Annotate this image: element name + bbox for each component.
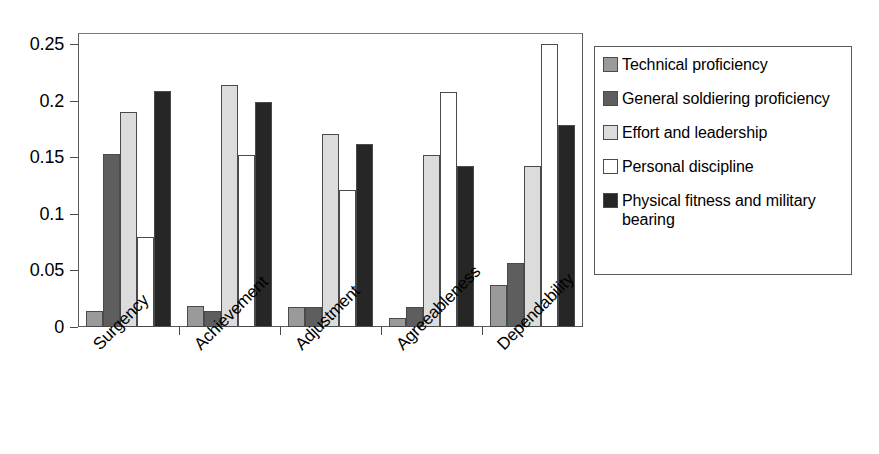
x-axis-tick-mark <box>381 327 382 335</box>
y-axis-tick-label: 0.2 <box>40 92 64 110</box>
bar-group <box>78 33 179 327</box>
legend-item[interactable]: Effort and leadership <box>603 123 845 142</box>
y-axis-tick-mark <box>70 157 78 158</box>
legend-swatch-icon <box>603 125 618 140</box>
y-axis-tick-label: 0.25 <box>30 35 64 53</box>
bar <box>221 85 238 327</box>
x-axis-tick-mark <box>179 327 180 335</box>
y-axis-tick-label: 0.1 <box>40 205 64 223</box>
bar-group <box>280 33 381 327</box>
y-axis-tick-label: 0.15 <box>30 148 64 166</box>
legend-item-label: Physical fitness and military bearing <box>622 191 845 229</box>
bar <box>154 91 171 327</box>
bar <box>490 285 507 327</box>
chart-legend: Technical proficiencyGeneral soldiering … <box>594 46 852 275</box>
bar <box>288 307 305 327</box>
legend-item[interactable]: Technical proficiency <box>603 55 845 74</box>
bar <box>187 306 204 327</box>
y-axis-tick-label: 0 <box>54 318 64 336</box>
legend-swatch-icon <box>603 193 618 208</box>
legend-swatch-icon <box>603 159 618 174</box>
legend-swatch-icon <box>603 91 618 106</box>
legend-item-label: General soldiering proficiency <box>622 89 830 108</box>
y-axis-tick-mark <box>70 327 78 328</box>
y-axis-tick-mark <box>70 214 78 215</box>
legend-item-label: Personal discipline <box>622 157 754 176</box>
legend-item[interactable]: Physical fitness and military bearing <box>603 191 845 229</box>
y-axis-tick-mark <box>70 101 78 102</box>
legend-item[interactable]: General soldiering proficiency <box>603 89 845 108</box>
bar <box>86 311 103 327</box>
y-axis-tick-mark <box>70 270 78 271</box>
bar-chart-figure: 00.050.10.150.20.25 SurgencyAchievementA… <box>0 0 879 454</box>
y-axis-tick-mark <box>70 44 78 45</box>
x-axis-tick-mark <box>280 327 281 335</box>
y-axis-tick-label: 0.05 <box>30 261 64 279</box>
bar <box>103 154 120 327</box>
legend-swatch-icon <box>603 57 618 72</box>
legend-item[interactable]: Personal discipline <box>603 157 845 176</box>
plot-area <box>78 33 583 327</box>
x-axis-tick-mark <box>482 327 483 335</box>
bar <box>389 318 406 327</box>
legend-item-label: Technical proficiency <box>622 55 768 74</box>
legend-item-label: Effort and leadership <box>622 123 767 142</box>
bar <box>457 166 474 327</box>
y-axis: 00.050.10.150.20.25 <box>0 0 74 454</box>
